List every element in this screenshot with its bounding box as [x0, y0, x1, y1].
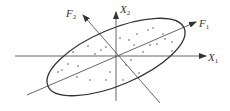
data-point [152, 27, 154, 29]
data-point [130, 59, 132, 61]
f2-axis [83, 15, 160, 103]
data-point [156, 43, 158, 45]
f1-label: F1 [198, 17, 210, 31]
data-point [105, 46, 107, 48]
data-point [138, 72, 140, 74]
data-point [149, 44, 151, 46]
data-point [133, 44, 135, 46]
data-points [57, 27, 173, 81]
data-point [122, 79, 124, 81]
data-point [119, 37, 121, 39]
data-point [89, 79, 91, 81]
data-point [61, 69, 63, 71]
data-point [76, 76, 78, 78]
f2-label: F2 [65, 7, 77, 21]
data-point [72, 51, 74, 53]
data-point [94, 53, 96, 55]
data-point [87, 45, 89, 47]
x1-label: X1 [207, 51, 219, 65]
data-point [109, 71, 111, 73]
data-point [164, 38, 166, 40]
data-point [128, 39, 130, 41]
x2-label: X2 [119, 3, 131, 17]
data-point [57, 71, 59, 73]
data-point [136, 33, 138, 35]
data-point [171, 41, 173, 43]
data-point [77, 65, 79, 67]
data-point [142, 51, 144, 53]
data-point [105, 79, 107, 81]
f1-axis [27, 22, 196, 95]
data-point [171, 50, 173, 52]
data-point [67, 63, 69, 65]
data-point [100, 49, 102, 51]
pca-rotation-diagram: X1 X2 F1 F2 [0, 0, 230, 111]
data-point [162, 33, 164, 35]
data-point [125, 64, 127, 66]
data-point [147, 29, 149, 31]
